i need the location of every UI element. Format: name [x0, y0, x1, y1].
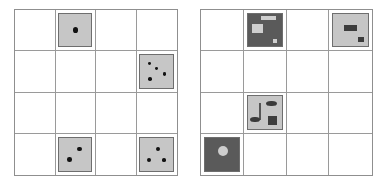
grid-cell[interactable] [137, 93, 178, 134]
grid-cell[interactable] [15, 134, 56, 175]
rect-shape [273, 39, 278, 43]
rect-shape [268, 116, 277, 125]
right-grid [200, 9, 373, 176]
grid-cell[interactable] [56, 51, 97, 92]
dice-pip [73, 27, 78, 33]
dice-tile[interactable] [139, 137, 174, 172]
grid-cell[interactable] [96, 134, 137, 175]
grid-cell[interactable] [329, 134, 372, 175]
rect-shape [261, 16, 277, 20]
rect-shape [252, 24, 262, 34]
grid-cell[interactable] [244, 93, 287, 134]
grid-cell[interactable] [329, 10, 372, 51]
dice-pip [162, 158, 166, 162]
dice-pip [148, 77, 152, 81]
grid-cell[interactable] [56, 10, 97, 51]
object-tile[interactable] [332, 13, 369, 48]
left-panel [14, 9, 178, 176]
rect-shape [344, 25, 357, 32]
grid-cell[interactable] [287, 134, 330, 175]
grid-cell[interactable] [244, 10, 287, 51]
dice-pip [163, 72, 166, 75]
dice-pip [148, 62, 152, 66]
grid-cell[interactable] [137, 10, 178, 51]
object-tile[interactable] [247, 13, 283, 48]
dice-tile[interactable] [58, 13, 92, 48]
figure-canvas [0, 0, 387, 186]
grid-cell[interactable] [287, 10, 330, 51]
grid-cell[interactable] [137, 51, 178, 92]
right-panel [200, 9, 373, 176]
grid-cell[interactable] [15, 10, 56, 51]
grid-cell[interactable] [96, 51, 137, 92]
grid-cell[interactable] [329, 51, 372, 92]
ellipse-shape [250, 117, 260, 123]
grid-cell[interactable] [201, 51, 244, 92]
dice-pip [155, 67, 158, 70]
grid-cell[interactable] [201, 93, 244, 134]
grid-cell[interactable] [15, 51, 56, 92]
grid-cell[interactable] [56, 93, 97, 134]
circle-shape [218, 146, 228, 156]
grid-cell[interactable] [96, 10, 137, 51]
dice-pip [67, 157, 71, 162]
dice-tile[interactable] [139, 54, 174, 89]
dice-pip [156, 147, 160, 151]
object-tile[interactable] [247, 95, 283, 130]
grid-cell[interactable] [201, 10, 244, 51]
dice-pip [147, 158, 151, 162]
grid-cell[interactable] [15, 93, 56, 134]
left-grid [14, 9, 178, 176]
grid-cell[interactable] [244, 51, 287, 92]
ellipse-shape [266, 101, 278, 107]
grid-cell[interactable] [329, 93, 372, 134]
grid-cell[interactable] [96, 93, 137, 134]
object-tile[interactable] [204, 137, 240, 172]
grid-cell[interactable] [201, 134, 244, 175]
grid-cell[interactable] [287, 51, 330, 92]
grid-cell[interactable] [137, 134, 178, 175]
dice-pip [77, 147, 81, 152]
dice-tile[interactable] [58, 137, 92, 172]
grid-cell[interactable] [56, 134, 97, 175]
grid-cell[interactable] [244, 134, 287, 175]
rect-shape [358, 37, 364, 42]
grid-cell[interactable] [287, 93, 330, 134]
